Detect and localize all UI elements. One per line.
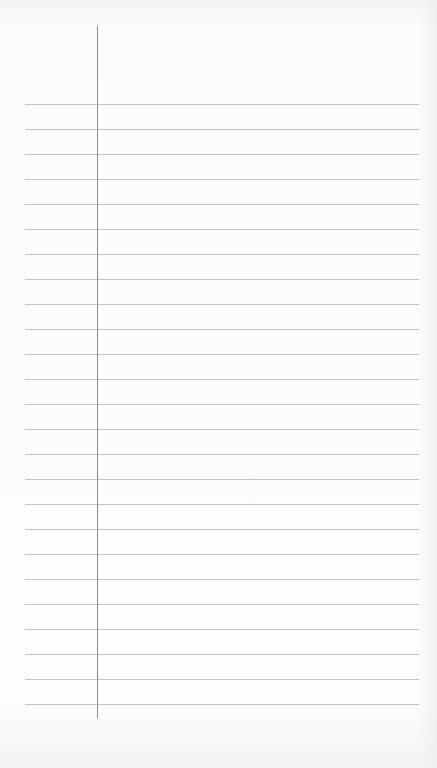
- ruled-line: [25, 204, 419, 205]
- ruled-line: [25, 229, 419, 230]
- ruled-line: [25, 579, 419, 580]
- ruled-line: [25, 454, 419, 455]
- ruled-line: [25, 529, 419, 530]
- ruled-line: [25, 329, 419, 330]
- ruled-line: [25, 604, 419, 605]
- ruled-line: [25, 379, 419, 380]
- ruled-lines: [0, 0, 437, 768]
- ruled-line: [25, 679, 419, 680]
- ruled-line: [25, 154, 419, 155]
- ruled-line: [25, 479, 419, 480]
- ruled-line: [25, 404, 419, 405]
- ruled-line: [25, 129, 419, 130]
- ruled-line: [25, 429, 419, 430]
- ruled-line: [25, 104, 419, 105]
- ruled-line: [25, 504, 419, 505]
- ruled-paper: [0, 0, 437, 768]
- ruled-line: [25, 254, 419, 255]
- ruled-line: [25, 654, 419, 655]
- ruled-line: [25, 279, 419, 280]
- ruled-line: [25, 179, 419, 180]
- ruled-line: [25, 304, 419, 305]
- ruled-line: [25, 554, 419, 555]
- ruled-line: [25, 354, 419, 355]
- ruled-line: [25, 629, 419, 630]
- margin-line: [97, 26, 98, 718]
- ruled-line: [25, 704, 419, 705]
